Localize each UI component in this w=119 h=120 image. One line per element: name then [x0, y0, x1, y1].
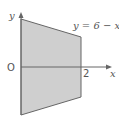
region-diagram: y x O 2 y = 6 − x	[0, 0, 119, 120]
x-axis-label: x	[110, 68, 116, 79]
origin-label: O	[7, 62, 15, 73]
curve-label: y = 6 − x	[72, 20, 119, 31]
y-axis-arrow-icon	[19, 12, 24, 18]
x-tick-label: 2	[83, 68, 89, 79]
y-axis-label: y	[8, 10, 15, 21]
